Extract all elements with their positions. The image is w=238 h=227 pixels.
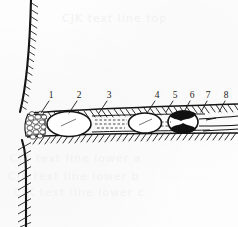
- callout-label-6: 6: [190, 90, 195, 100]
- callout-label-8: 8: [224, 90, 229, 100]
- right-tail-lines: [199, 116, 238, 131]
- open-vesicle-1: [47, 112, 91, 137]
- cross-section-drawing: 1 2 3 4 5 6 7 8: [0, 0, 238, 227]
- callout-label-5: 5: [173, 90, 178, 100]
- callout-label-7: 7: [206, 90, 211, 100]
- callout-label-3: 3: [107, 90, 112, 100]
- callout-label-1: 1: [49, 90, 54, 100]
- callout-label-4: 4: [155, 90, 160, 100]
- figure-root: CJK text line top CJK text line lower a …: [0, 0, 238, 227]
- open-vesicle-2: [129, 113, 162, 133]
- dark-vesicle-3: [168, 110, 198, 133]
- hatched-boundary-wall-upper: [20, 0, 41, 113]
- leader-line-8: [219, 101, 225, 112]
- callout-label-2: 2: [77, 90, 82, 100]
- callout-number-labels: 1 2 3 4 5 6 7 8: [49, 90, 229, 100]
- leader-line-7: [201, 101, 207, 112]
- granular-cobble-zone: [25, 111, 47, 139]
- hatched-boundary-wall-lower: [18, 140, 32, 227]
